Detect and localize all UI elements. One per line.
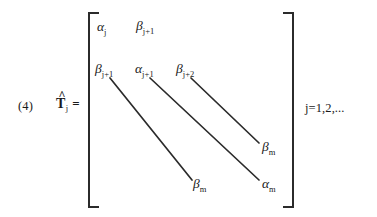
matrix-entry-beta-m-upper: βm <box>262 140 275 156</box>
equation-left-hand-side: ^ Tj = <box>56 96 80 113</box>
entry-subscript: j+1 <box>143 26 155 36</box>
matrix-entry-beta-m-lower: βm <box>193 177 206 193</box>
matrix-entry-beta-j-plus-2: βj+2 <box>176 62 194 78</box>
entry-subscript: j+1 <box>142 69 154 79</box>
entry-subscript: j+2 <box>183 69 195 79</box>
matrix-entry-alpha-j-plus-1: αj+1 <box>135 62 154 78</box>
greek-letter: β <box>193 176 200 191</box>
greek-letter: β <box>262 139 269 154</box>
equation-figure: (4) ^ Tj = αj βj+1 βj+1 αj+1 βj+2 βm βm … <box>0 0 377 217</box>
matrix-symbol: ^ Tj <box>56 96 68 113</box>
entry-subscript: m <box>269 184 276 194</box>
entry-subscript: m <box>200 184 207 194</box>
matrix-entry-beta-j-plus-1-row1: βj+1 <box>136 19 154 35</box>
matrix-entry-beta-j-plus-1-row2: βj+1 <box>95 62 113 78</box>
greek-letter: β <box>95 61 102 76</box>
matrix-bracket-left <box>88 12 99 208</box>
equation-number: (4) <box>18 99 33 114</box>
matrix-bracket-right <box>283 12 294 208</box>
entry-subscript: j+1 <box>102 69 114 79</box>
hat-accent-icon: ^ <box>59 89 66 101</box>
diagonal-ellipsis-line <box>191 78 259 143</box>
matrix-entry-alpha-j: αj <box>97 20 107 36</box>
diagonal-ellipsis-line <box>110 78 192 180</box>
matrix-entry-alpha-m: αm <box>262 177 276 193</box>
greek-letter: β <box>136 18 143 33</box>
entry-subscript: j <box>104 27 106 37</box>
matrix-symbol-subscript: j <box>66 103 68 113</box>
entry-subscript: m <box>269 147 276 157</box>
equals-sign: = <box>72 96 79 112</box>
index-range-annotation: j=1,2,... <box>305 101 345 116</box>
diagonal-ellipsis-line <box>150 78 259 180</box>
greek-letter: β <box>176 61 183 76</box>
